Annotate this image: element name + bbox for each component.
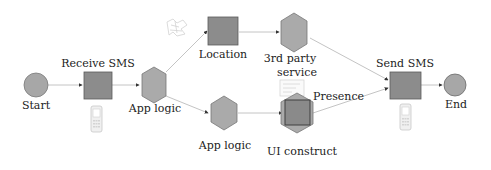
location-square — [208, 17, 238, 45]
node-end: End — [444, 74, 467, 111]
ui-construct-label: UI construct — [267, 145, 338, 158]
app-logic-2-hexagon — [211, 96, 237, 130]
end-circle — [444, 74, 466, 96]
send-sms-label: Send SMS — [376, 57, 434, 70]
node-send-sms: Send SMS — [376, 57, 434, 130]
third-party-label-line2: service — [277, 66, 317, 79]
receive-sms-label: Receive SMS — [61, 57, 135, 70]
node-app-logic-2: App logic — [198, 96, 251, 152]
node-third-party-service: 3rd party service — [264, 13, 317, 79]
start-label: Start — [22, 99, 51, 112]
app-logic-2-label: App logic — [198, 139, 251, 152]
presence-annotation: Presence — [313, 90, 364, 103]
node-ui-construct: Presence UI construct — [267, 90, 364, 158]
node-receive-sms: Receive SMS — [61, 57, 135, 132]
send-sms-square — [390, 72, 421, 99]
location-label: Location — [199, 48, 247, 61]
third-party-hexagon — [281, 13, 307, 52]
mobile-phone-icon — [91, 106, 102, 132]
start-circle — [24, 73, 48, 97]
ui-construct-square — [285, 100, 310, 125]
workflow-diagram: Start Receive SMS App logic Location 3r — [0, 0, 491, 170]
map-icon — [167, 19, 187, 36]
node-start: Start — [22, 73, 51, 112]
app-logic-1-hexagon — [142, 67, 166, 103]
node-location: Location — [199, 17, 247, 61]
node-app-logic-1: App logic — [128, 67, 181, 115]
receive-sms-square — [84, 72, 112, 99]
third-party-label-line1: 3rd party — [264, 52, 317, 65]
presence-card-icon — [280, 80, 304, 96]
mobile-phone-icon — [400, 104, 411, 130]
app-logic-1-label: App logic — [128, 102, 181, 115]
end-label: End — [445, 98, 467, 111]
